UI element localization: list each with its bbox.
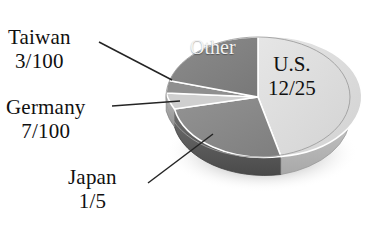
- japan-value: 1/5: [68, 190, 117, 214]
- taiwan-value: 3/100: [8, 50, 71, 74]
- japan-name: Japan: [68, 166, 117, 190]
- us-name: U.S.: [268, 52, 316, 76]
- germany-value: 7/100: [6, 120, 86, 144]
- taiwan-callout-label: Taiwan 3/100: [8, 26, 71, 73]
- pie-chart-figure: Taiwan 3/100 Germany 7/100 Japan 1/5 U.S…: [0, 0, 368, 230]
- germany-name: Germany: [6, 96, 86, 120]
- taiwan-leader-line: [99, 42, 172, 80]
- taiwan-name: Taiwan: [8, 26, 71, 50]
- us-slice-label: U.S. 12/25: [268, 52, 316, 100]
- germany-callout-label: Germany 7/100: [6, 96, 86, 143]
- japan-callout-label: Japan 1/5: [68, 166, 117, 213]
- us-value: 12/25: [268, 76, 316, 100]
- other-slice-label: Other: [190, 36, 236, 59]
